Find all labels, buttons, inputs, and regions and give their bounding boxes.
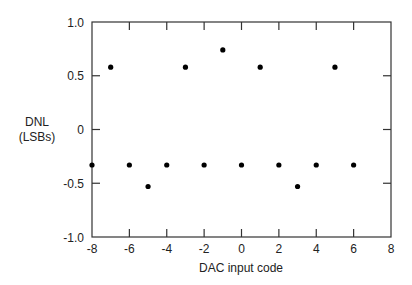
y-tick-label: 0 xyxy=(77,123,84,137)
x-tick-label: -4 xyxy=(161,242,172,256)
data-points xyxy=(89,47,356,189)
x-tick-label: 2 xyxy=(276,242,283,256)
data-point xyxy=(183,65,188,70)
data-point xyxy=(164,162,169,167)
y-axis-label-line2: (LSBs) xyxy=(19,130,56,144)
data-point xyxy=(314,162,319,167)
data-point xyxy=(276,162,281,167)
x-tick-label: -6 xyxy=(124,242,135,256)
data-point xyxy=(202,162,207,167)
data-point xyxy=(332,65,337,70)
data-point xyxy=(89,162,94,167)
plot-frame xyxy=(92,22,391,237)
dnl-chart: -8-6-4-202468 -1.0-0.500.51.0 DAC input … xyxy=(0,0,412,285)
y-tick-label: -1.0 xyxy=(63,231,84,245)
y-tick-label: 0.5 xyxy=(67,69,84,83)
x-tick-label: -8 xyxy=(87,242,98,256)
data-point xyxy=(220,47,225,52)
data-point xyxy=(295,184,300,189)
y-tick-label: -0.5 xyxy=(63,177,84,191)
data-point xyxy=(258,65,263,70)
data-point xyxy=(127,162,132,167)
x-axis-label: DAC input code xyxy=(199,261,283,275)
x-tick-label: 6 xyxy=(350,242,357,256)
x-tick-label: 0 xyxy=(238,242,245,256)
x-tick-label: -2 xyxy=(199,242,210,256)
y-axis-label-line1: DNL xyxy=(25,115,49,129)
data-point xyxy=(239,162,244,167)
y-tick-label: 1.0 xyxy=(67,16,84,30)
data-point xyxy=(351,162,356,167)
data-point xyxy=(145,184,150,189)
y-tick-labels: -1.0-0.500.51.0 xyxy=(63,16,84,245)
x-tick-labels: -8-6-4-202468 xyxy=(87,242,395,256)
x-tick-label: 4 xyxy=(313,242,320,256)
x-tick-label: 8 xyxy=(388,242,395,256)
axis-ticks xyxy=(92,22,391,237)
data-point xyxy=(108,65,113,70)
